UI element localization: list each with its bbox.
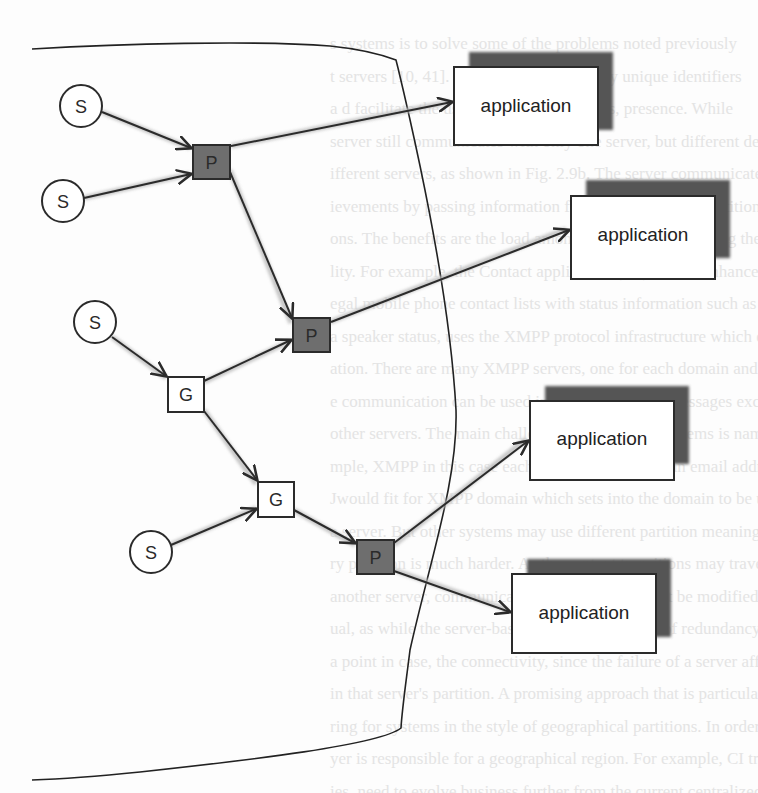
application-label: application [539,602,630,623]
gateway-g2[interactable]: G [258,482,294,517]
edge-s1-p1 [102,112,191,148]
application-label: application [598,224,689,245]
edge-p2-app2 [331,230,569,322]
sensor-s1[interactable]: S [60,85,102,127]
processor-p2[interactable]: P [293,318,330,352]
processor-p3[interactable]: P [357,540,394,574]
edge-s4-g2 [171,509,256,545]
application-box-2[interactable]: application [571,196,715,279]
gateway-g1[interactable]: G [168,377,204,412]
edge-g2-p3 [294,510,355,543]
sensor-label: S [89,313,101,333]
application-box-1[interactable]: application [454,67,598,145]
diagram-canvas: s systems is to solve some of the proble… [0,0,758,793]
processor-p1[interactable]: P [193,145,230,179]
edge-p1-app1 [231,102,452,146]
edge-s2-p1 [84,174,191,198]
sensor-label: S [57,192,69,212]
sensor-label: S [145,543,157,563]
application-label: application [481,95,572,116]
sensor-s3[interactable]: S [74,301,116,343]
processor-label: P [305,326,317,346]
application-box-4[interactable]: application [512,574,656,653]
domain-boundary [32,43,456,780]
edge-p3-app3 [394,441,528,543]
edge-g1-p2 [204,340,291,381]
sensor-s2[interactable]: S [42,180,84,222]
edge-g1-g2 [204,411,257,480]
edge-s3-g1 [112,337,166,376]
gateway-label: G [269,490,283,510]
sensor-s4[interactable]: S [130,531,172,573]
application-box-3[interactable]: application [530,401,674,480]
edge-p3-app4 [394,571,510,612]
network-diagram: S S S S P P P G [0,0,758,793]
application-label: application [557,428,648,449]
processor-label: P [369,548,381,568]
gateway-label: G [179,385,193,405]
sensor-label: S [75,97,87,117]
processor-label: P [205,153,217,173]
edge-p1-p2 [230,172,292,318]
